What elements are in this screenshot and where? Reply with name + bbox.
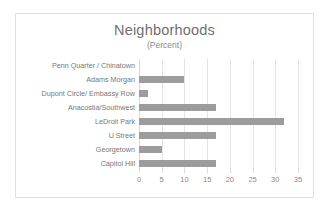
bar-row	[139, 87, 298, 101]
category-label: U Street	[34, 129, 135, 143]
chart-title-block: Neighborhoods (Percent)	[16, 22, 313, 51]
x-axis-tick-labels: 05101520253035	[139, 174, 298, 188]
tick-mark-30	[275, 170, 276, 173]
y-axis-category-labels: Penn Quarter / ChinatownAdams MorganDupo…	[34, 59, 135, 171]
x-tick-label-35: 35	[294, 174, 302, 186]
x-tick-label-25: 25	[248, 174, 256, 186]
tick-mark-15	[207, 170, 208, 173]
bar[interactable]	[139, 132, 216, 139]
category-label: Dupont Circle/ Embassy Row	[34, 87, 135, 101]
category-label: Georgetown	[34, 143, 135, 157]
chart-container: Neighborhoods (Percent) Penn Quarter / C…	[15, 13, 314, 198]
tick-mark-20	[230, 170, 231, 173]
bar-row	[139, 129, 298, 143]
bar-row	[139, 101, 298, 115]
x-tick-label-10: 10	[180, 174, 188, 186]
category-label: Capitol Hill	[34, 157, 135, 171]
category-label: LeDroit Park	[34, 115, 135, 129]
tick-mark-35	[298, 170, 299, 173]
x-tick-label-0: 0	[137, 174, 141, 186]
bar[interactable]	[139, 146, 162, 153]
category-label: Adams Morgan	[34, 73, 135, 87]
bar-row	[139, 157, 298, 171]
plot-area	[139, 59, 298, 171]
tick-mark-25	[253, 170, 254, 173]
bar-row	[139, 59, 298, 73]
bar[interactable]	[139, 118, 284, 125]
bar-row	[139, 143, 298, 157]
bar[interactable]	[139, 104, 216, 111]
bar-row	[139, 115, 298, 129]
chart-title: Neighborhoods	[16, 22, 313, 39]
bar[interactable]	[139, 76, 184, 83]
bar-row	[139, 73, 298, 87]
bar[interactable]	[139, 90, 148, 97]
tick-mark-5	[162, 170, 163, 173]
tick-mark-10	[184, 170, 185, 173]
bar[interactable]	[139, 160, 216, 167]
bars-layer	[139, 59, 298, 171]
gridline-35	[298, 59, 299, 171]
x-tick-label-20: 20	[226, 174, 234, 186]
x-tick-label-30: 30	[271, 174, 279, 186]
category-label: Penn Quarter / Chinatown	[34, 59, 135, 73]
tick-mark-0	[139, 170, 140, 173]
category-label: Anacostia/Southwest	[34, 101, 135, 115]
x-tick-label-15: 15	[203, 174, 211, 186]
chart-subtitle: (Percent)	[16, 40, 313, 51]
x-tick-label-5: 5	[160, 174, 164, 186]
